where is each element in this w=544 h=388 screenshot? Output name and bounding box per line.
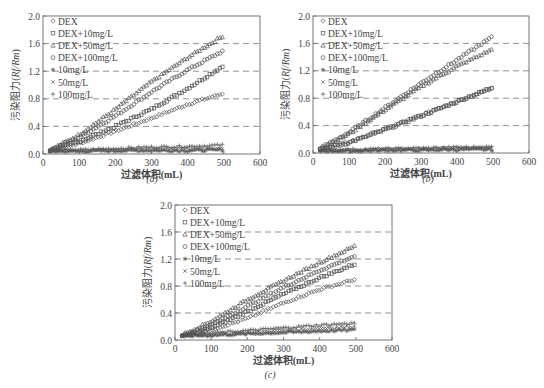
- legend-item: DEX+10mg/L: [328, 29, 383, 39]
- x-tick-label: 200: [108, 158, 123, 168]
- legend-item: DEX+100mg/L: [190, 242, 250, 252]
- legend: DEXDEX+10mg/LDEX+50mg/LDEX+100mg/L10mg/L…: [321, 17, 388, 100]
- legend-item: DEX+50mg/L: [190, 230, 245, 240]
- y-tick-label: 1.6: [28, 39, 40, 49]
- legend-item: 10mg/L: [58, 65, 88, 75]
- legend-item: DEX+10mg/L: [190, 218, 245, 228]
- legend-item: DEX: [58, 17, 78, 27]
- legend-item: 10mg/L: [190, 254, 220, 264]
- x-tick-label: 600: [253, 158, 268, 168]
- x-tick-label: 400: [313, 344, 328, 354]
- y-tick-label: 0.0: [28, 150, 40, 160]
- y-tick-label: 2.0: [28, 12, 40, 22]
- legend-item: DEX: [190, 206, 210, 216]
- x-tick-label: 400: [181, 158, 196, 168]
- x-tick-label: 500: [486, 157, 501, 167]
- caption-b: (b): [408, 173, 448, 184]
- y-tick-label: 1.2: [160, 255, 172, 265]
- x-tick-label: 0: [41, 158, 46, 168]
- legend: DEXDEX+10mg/LDEX+50mg/LDEX+100mg/L10mg/L…: [51, 17, 118, 100]
- legend-item: DEX+100mg/L: [328, 53, 388, 63]
- chart-c-svg: 0.00.40.81.21.62.00100200300400500600过滤体…: [140, 190, 412, 388]
- chart-panel-b: 0.00.40.81.21.62.00100200300400500600过滤体…: [272, 0, 544, 190]
- x-axis-label: 过滤体积(mL): [253, 354, 315, 367]
- y-tick-label: 0.0: [298, 149, 310, 159]
- x-tick-label: 300: [414, 157, 429, 167]
- y-tick-label: 0.0: [160, 336, 172, 346]
- x-tick-label: 500: [217, 158, 232, 168]
- legend-item: 100mg/L: [190, 279, 225, 289]
- x-tick-label: 400: [450, 157, 465, 167]
- x-tick-label: 0: [173, 344, 178, 354]
- y-tick-label: 0.8: [28, 94, 40, 104]
- legend-item: 100mg/L: [328, 90, 363, 100]
- legend-item: 50mg/L: [190, 267, 220, 277]
- legend-item: 10mg/L: [328, 65, 358, 75]
- legend: DEXDEX+10mg/LDEX+50mg/LDEX+100mg/L10mg/L…: [183, 206, 250, 289]
- chart-panel-c: 0.00.40.81.21.62.00100200300400500600过滤体…: [140, 190, 412, 388]
- x-tick-label: 100: [72, 158, 87, 168]
- x-tick-label: 0: [311, 157, 316, 167]
- chart-panel-a: 0.00.40.81.21.62.00100200300400500600过滤体…: [0, 0, 272, 190]
- x-tick-label: 600: [522, 157, 537, 167]
- x-tick-label: 200: [240, 344, 255, 354]
- legend-item: DEX+50mg/L: [328, 41, 383, 51]
- x-tick-label: 300: [276, 344, 291, 354]
- x-tick-label: 200: [378, 157, 393, 167]
- legend-item: DEX+100mg/L: [58, 53, 118, 63]
- y-tick-label: 0.4: [28, 122, 40, 132]
- y-tick-label: 2.0: [160, 201, 172, 211]
- x-tick-label: 600: [385, 344, 400, 354]
- legend-item: 50mg/L: [58, 78, 88, 88]
- y-tick-label: 1.2: [28, 67, 40, 77]
- legend-item: 100mg/L: [58, 90, 93, 100]
- x-tick-label: 300: [144, 158, 159, 168]
- y-axis-label: 污染阻力(Rf/Rm): [141, 237, 154, 309]
- x-tick-label: 100: [342, 157, 357, 167]
- caption-c: (c): [250, 369, 290, 380]
- chart-b-svg: 0.00.40.81.21.62.00100200300400500600过滤体…: [272, 0, 544, 190]
- y-axis-label: 污染阻力(Rf/Rm): [279, 49, 292, 121]
- y-tick-label: 0.8: [298, 94, 310, 104]
- legend-item: DEX+50mg/L: [58, 41, 113, 51]
- y-tick-label: 0.4: [298, 121, 310, 131]
- y-tick-label: 0.4: [160, 309, 172, 319]
- y-tick-label: 1.6: [160, 228, 172, 238]
- y-tick-label: 1.6: [298, 39, 310, 49]
- x-tick-label: 500: [349, 344, 364, 354]
- y-tick-label: 0.8: [160, 282, 172, 292]
- legend-item: DEX: [328, 17, 348, 27]
- caption-a: (a): [132, 173, 172, 184]
- legend-item: DEX+10mg/L: [58, 29, 113, 39]
- chart-a-svg: 0.00.40.81.21.62.00100200300400500600过滤体…: [0, 0, 272, 190]
- y-tick-label: 1.2: [298, 66, 310, 76]
- y-tick-label: 2.0: [298, 12, 310, 22]
- legend-item: 50mg/L: [328, 78, 358, 88]
- x-tick-label: 100: [204, 344, 219, 354]
- y-axis-label: 污染阻力(Rf/Rm): [9, 49, 22, 121]
